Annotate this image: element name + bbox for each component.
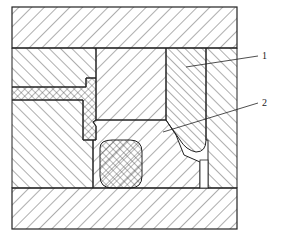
top-plate <box>12 7 237 48</box>
left-upper-block <box>12 48 96 87</box>
left-lower-block <box>12 100 93 188</box>
right-block <box>206 48 237 188</box>
central-block <box>96 48 166 120</box>
o-ring <box>100 140 142 188</box>
label-2: 2 <box>262 97 267 108</box>
gap <box>200 160 208 188</box>
label-1: 1 <box>262 50 267 61</box>
bottom-plate <box>12 188 237 229</box>
cross-section-drawing: 1 2 <box>0 0 281 239</box>
